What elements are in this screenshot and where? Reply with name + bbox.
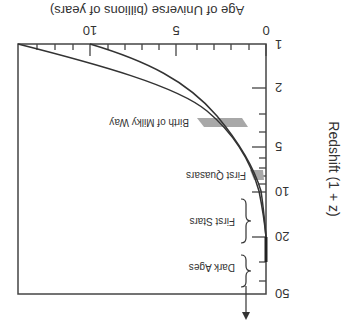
arrow-head-icon — [242, 312, 250, 320]
redshift-tick-50: 50 — [275, 286, 289, 301]
age-tick-5: 5 — [172, 23, 179, 38]
redshift-tick-20: 20 — [275, 229, 289, 244]
redshift-age-chart: 0 5 10 Age of Universe (billions of year… — [0, 0, 347, 326]
redshift-tick-10: 10 — [275, 184, 289, 199]
age-tick-10: 10 — [83, 23, 97, 38]
redshift-tick-2: 2 — [275, 80, 282, 95]
redshift-tick-1: 1 — [275, 37, 282, 52]
first-stars-brace — [241, 199, 251, 243]
upper-curve — [18, 44, 266, 237]
label-first-quasars: First Quasars — [186, 170, 246, 181]
x-axis-label: Redshift (1 + z) — [326, 121, 342, 216]
age-tick-0: 0 — [262, 23, 269, 38]
y-axis-label: Age of Universe (billions of years) — [50, 3, 244, 18]
lower-curve — [90, 44, 266, 237]
redshift-tick-5: 5 — [275, 139, 282, 154]
age-axis-ticks — [37, 44, 266, 56]
dark-ages-brace — [241, 255, 251, 287]
label-dark-ages: Dark Ages — [189, 262, 235, 273]
label-birth-milky-way: Birth of Milky Way — [109, 117, 189, 128]
label-first-stars: First Stars — [189, 216, 235, 227]
plot-frame — [18, 44, 266, 294]
